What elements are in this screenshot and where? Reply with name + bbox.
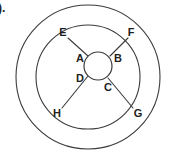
figure-container: ). A B C D E F G H bbox=[0, 0, 169, 162]
outer-circle bbox=[16, 5, 160, 149]
concentric-circles-diagram: ). A B C D E F G H bbox=[0, 0, 169, 162]
item-number-label: ). bbox=[0, 1, 5, 15]
label-b: B bbox=[114, 52, 122, 64]
label-a: A bbox=[76, 52, 84, 64]
middle-circle bbox=[36, 25, 140, 129]
label-h: H bbox=[53, 107, 61, 119]
label-g: G bbox=[134, 107, 143, 119]
label-d: D bbox=[76, 72, 84, 84]
label-e: E bbox=[59, 26, 66, 38]
spoke-d-h bbox=[62, 76, 88, 108]
label-f: F bbox=[128, 26, 135, 38]
label-c: C bbox=[104, 81, 112, 93]
inner-circle bbox=[84, 52, 112, 80]
